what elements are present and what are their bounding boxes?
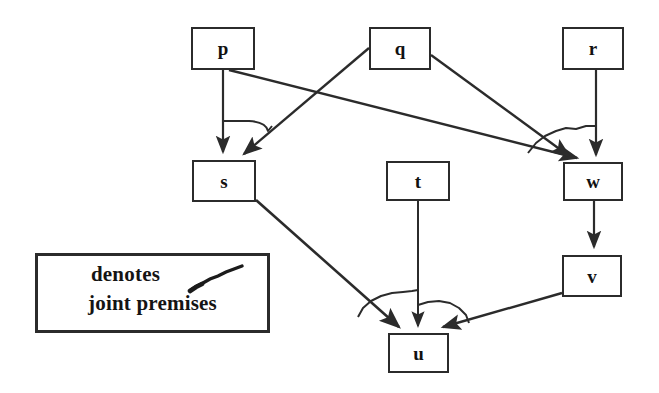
- diagram-canvas: p q r s t w v u denotes joint premises: [0, 0, 659, 393]
- node-t[interactable]: t: [386, 161, 450, 201]
- node-t-label: t: [415, 172, 421, 191]
- node-r-label: r: [589, 39, 597, 58]
- diagram-edges-layer: [0, 0, 659, 393]
- node-s-label: s: [220, 172, 227, 191]
- node-p[interactable]: p: [191, 27, 255, 70]
- legend-joint-premises-label: joint premises: [88, 291, 217, 315]
- node-s[interactable]: s: [192, 160, 256, 202]
- edge-q-to-w: [431, 55, 569, 156]
- joint-premise-arc-s: [223, 121, 272, 131]
- legend-line-2: joint premises: [38, 291, 267, 316]
- node-r[interactable]: r: [562, 27, 624, 70]
- node-q-label: q: [395, 39, 406, 58]
- joint-premise-arc-u-left: [358, 290, 418, 317]
- joint-premise-slash-icon: [187, 264, 249, 294]
- joint-premise-arc-u-right: [418, 301, 469, 323]
- node-v-label: v: [587, 267, 597, 286]
- node-v[interactable]: v: [562, 255, 622, 297]
- edge-s-to-u: [256, 200, 399, 327]
- node-q[interactable]: q: [369, 27, 431, 70]
- node-p-label: p: [218, 39, 229, 58]
- legend: denotes joint premises: [35, 253, 270, 333]
- node-w[interactable]: w: [563, 162, 623, 201]
- node-u-label: u: [413, 344, 424, 363]
- node-u[interactable]: u: [388, 333, 449, 373]
- node-w-label: w: [586, 172, 600, 191]
- edge-p-to-w: [229, 70, 577, 158]
